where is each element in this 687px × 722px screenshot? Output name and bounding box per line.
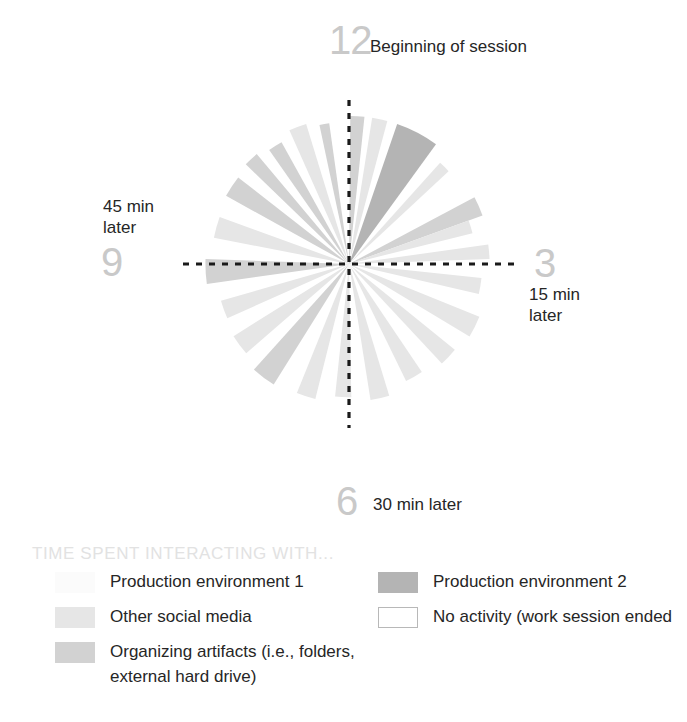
- legend-swatch: [378, 572, 418, 593]
- legend-column-right: Production environment 2No activity (wor…: [378, 570, 678, 640]
- legend-column-left: Production environment 1Other social med…: [55, 570, 360, 698]
- legend-item-label: Other social media: [110, 605, 252, 630]
- clock-numeral-9: 9: [101, 242, 122, 282]
- clock-numeral-6: 6: [336, 481, 357, 521]
- clock-numeral-12: 12: [329, 20, 372, 60]
- legend-item[interactable]: Organizing artifacts (i.e., folders, ext…: [55, 640, 360, 689]
- annotation-30-min-later: 30 min later: [373, 494, 462, 515]
- legend-swatch: [55, 642, 95, 663]
- legend-swatch: [55, 607, 95, 628]
- legend-swatch: [55, 572, 95, 593]
- legend-swatch: [378, 607, 418, 628]
- polar-time-chart: 12 Beginning of session 3 15 minlater 6 …: [0, 0, 687, 530]
- legend-item[interactable]: Production environment 1: [55, 570, 360, 596]
- annotation-45-min-later: 45 minlater: [103, 196, 154, 239]
- legend-item-label: No activity (work session ended: [433, 605, 672, 630]
- legend-item[interactable]: No activity (work session ended: [378, 605, 678, 631]
- annotation-15-min-later: 15 minlater: [529, 284, 580, 327]
- legend-item[interactable]: Production environment 2: [378, 570, 678, 596]
- legend-item-label: Production environment 1: [110, 570, 304, 595]
- annotation-beginning-of-session: Beginning of session: [370, 36, 527, 57]
- clock-numeral-3: 3: [534, 243, 555, 283]
- legend-title: TIME SPENT INTERACTING WITH...: [32, 544, 334, 564]
- legend: TIME SPENT INTERACTING WITH... Productio…: [0, 536, 687, 722]
- legend-item-label: Organizing artifacts (i.e., folders, ext…: [110, 640, 360, 689]
- legend-item[interactable]: Other social media: [55, 605, 360, 631]
- wedge-other_social_media: [349, 264, 481, 294]
- legend-item-label: Production environment 2: [433, 570, 627, 595]
